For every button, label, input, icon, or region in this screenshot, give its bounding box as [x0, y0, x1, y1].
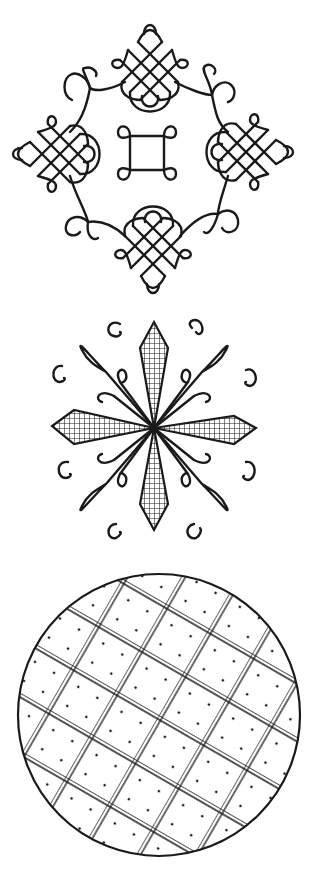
knotwork-square-motif: Interlaced knot medallion with four latt…	[0, 0, 322, 300]
knot-left	[13, 116, 100, 192]
knotwork-square-drawing	[0, 0, 322, 300]
knot-bottom	[115, 207, 191, 294]
central-square	[118, 126, 176, 179]
lattice-fill	[0, 560, 322, 872]
hatched-star-drawing	[0, 300, 322, 560]
knot-top	[112, 25, 188, 112]
lattice-circle-drawing	[0, 560, 322, 872]
lattice-circle-motif: Circle filled with double-line diagonal …	[0, 560, 322, 872]
knot-right	[207, 114, 294, 190]
hatched-star-motif: Eight-armed star with four cross-hatched…	[0, 300, 322, 560]
